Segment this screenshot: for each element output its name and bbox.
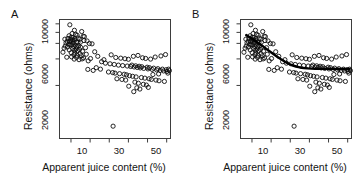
data-point [159, 54, 163, 58]
data-point [117, 72, 121, 76]
data-point [317, 53, 321, 57]
data-point [65, 55, 69, 59]
data-point [242, 50, 246, 54]
data-point [151, 72, 155, 76]
data-point [163, 52, 167, 56]
data-point [91, 68, 95, 72]
data-point [98, 67, 102, 71]
data-point [279, 67, 283, 71]
data-point [85, 39, 89, 43]
panel-a-data-points [61, 23, 172, 129]
data-point [162, 79, 166, 83]
data-point [344, 52, 348, 56]
data-point [272, 68, 276, 72]
data-point [295, 55, 299, 59]
data-point [86, 67, 90, 71]
data-point [106, 70, 110, 74]
data-point [330, 57, 334, 61]
data-point [292, 124, 296, 128]
figure-container: A Resistance (ohms) 2000 6000 10000 10 3… [0, 0, 363, 184]
data-point [298, 72, 302, 76]
data-point [290, 53, 294, 57]
data-point [271, 42, 275, 46]
data-point [136, 53, 140, 57]
data-point [308, 84, 312, 88]
panel-a-plot-area [0, 0, 181, 184]
data-point [121, 63, 125, 67]
data-point [108, 62, 112, 66]
data-point [300, 56, 304, 60]
data-point [80, 29, 84, 33]
data-point [296, 77, 300, 81]
panel-b-data-points [242, 23, 353, 129]
data-point [312, 54, 316, 58]
data-point [114, 55, 118, 59]
data-point [338, 72, 342, 76]
data-point [116, 63, 120, 67]
data-point [157, 72, 161, 76]
data-point [132, 90, 136, 94]
data-point [84, 52, 88, 56]
data-point [127, 84, 131, 88]
data-point [111, 124, 115, 128]
data-point [313, 90, 317, 94]
data-point [112, 62, 116, 66]
data-point [68, 23, 72, 27]
panel-b-plot-area [181, 0, 362, 184]
data-point [287, 70, 291, 74]
data-point [61, 50, 65, 54]
data-point [115, 77, 119, 81]
data-point [96, 54, 100, 58]
data-point [265, 52, 269, 56]
data-point [149, 57, 153, 61]
panel-b: B Resistance (ohms) 2000 6000 10000 10 3… [181, 0, 362, 184]
data-point [246, 55, 250, 59]
data-point [109, 53, 113, 57]
data-point [119, 56, 123, 60]
data-point [153, 55, 157, 59]
data-point [334, 55, 338, 59]
data-point [261, 29, 265, 33]
data-point [340, 54, 344, 58]
data-point [83, 46, 87, 50]
data-point [332, 72, 336, 76]
data-point [267, 67, 271, 71]
data-point [343, 79, 347, 83]
data-point [90, 42, 94, 46]
data-point [93, 50, 97, 54]
panel-a: A Resistance (ohms) 2000 6000 10000 10 3… [0, 0, 181, 184]
data-point [131, 54, 135, 58]
data-point [266, 39, 270, 43]
data-point [249, 23, 253, 27]
